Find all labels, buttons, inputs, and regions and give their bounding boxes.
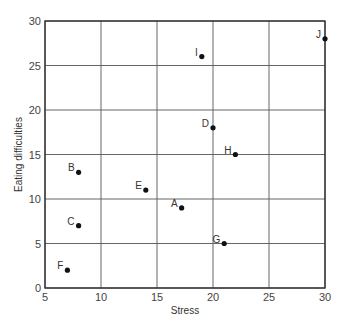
point-label: E	[135, 180, 142, 191]
point-label: A	[171, 198, 178, 209]
point-label: I	[195, 47, 198, 58]
x-tick-label: 20	[207, 291, 219, 303]
point-label: F	[57, 260, 63, 271]
data-point-e	[143, 188, 148, 193]
point-label: D	[202, 118, 209, 129]
x-tick-label: 10	[95, 291, 107, 303]
x-tick-label: 30	[319, 291, 331, 303]
point-label: J	[316, 29, 321, 40]
point-label: H	[224, 145, 231, 156]
scatter-plot: 51015202530051015202530StressEating diff…	[0, 0, 348, 327]
y-tick-label: 25	[29, 60, 41, 72]
data-point-b	[76, 170, 81, 175]
data-point-f	[65, 268, 70, 273]
point-label: G	[212, 234, 220, 245]
y-tick-label: 20	[29, 104, 41, 116]
data-point-a	[179, 205, 184, 210]
y-tick-label: 15	[29, 149, 41, 161]
y-tick-label: 30	[29, 15, 41, 27]
data-point-j	[322, 36, 327, 41]
data-point-c	[76, 223, 81, 228]
x-tick-label: 5	[42, 291, 48, 303]
point-label: B	[68, 162, 75, 173]
x-tick-label: 15	[151, 291, 163, 303]
y-axis-title: Eating difficulties	[13, 117, 24, 192]
x-axis-title: Stress	[171, 305, 199, 316]
x-tick-label: 25	[263, 291, 275, 303]
y-tick-label: 5	[35, 238, 41, 250]
y-tick-label: 10	[29, 193, 41, 205]
y-tick-label: 0	[35, 282, 41, 294]
data-point-i	[199, 54, 204, 59]
data-point-h	[233, 152, 238, 157]
point-label: C	[67, 216, 74, 227]
data-point-d	[210, 125, 215, 130]
data-point-g	[222, 241, 227, 246]
